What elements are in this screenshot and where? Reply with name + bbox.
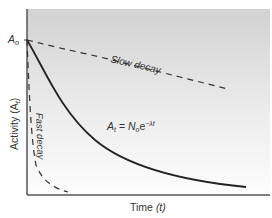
x-axis-label: Time (t) [130,201,166,213]
fast-decay-label: Fast decay [34,113,47,161]
y-axis-label: Activity (At) [8,98,22,150]
decay-chart: Ao Activity (At) Time (t) Slow decay Fas… [0,0,272,218]
y-tick-a0: Ao [7,33,19,47]
